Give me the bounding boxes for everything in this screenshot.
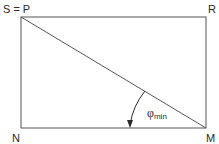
angle-symbol: φ xyxy=(147,106,154,120)
label-top-left: S = P xyxy=(3,3,30,15)
arrow-icon xyxy=(127,120,133,128)
label-top-right: R xyxy=(208,3,216,15)
label-bottom-left: N xyxy=(12,132,20,144)
angle-label: φmin xyxy=(147,106,167,121)
label-bottom-right: M xyxy=(206,132,215,144)
rectangle-diagram: S = P R N M φmin xyxy=(0,0,219,144)
angle-subscript: min xyxy=(154,112,167,121)
angle-arc xyxy=(130,91,145,125)
diagonal-line xyxy=(21,17,206,128)
